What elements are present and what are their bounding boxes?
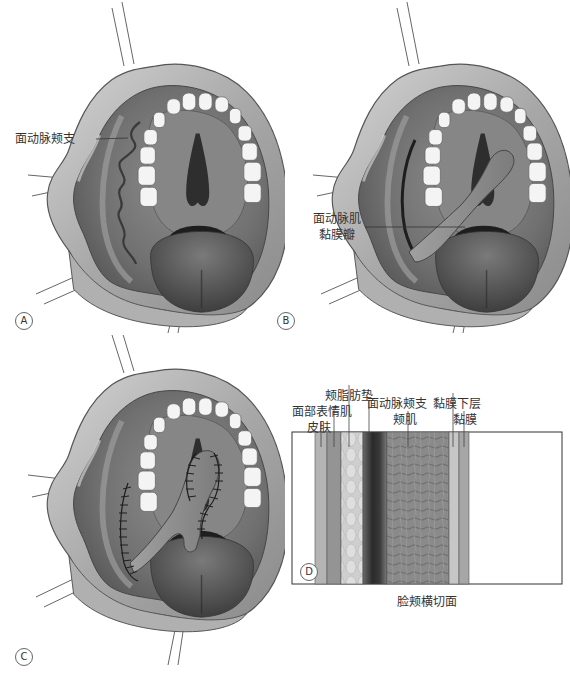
panel-b: 面动脉肌 黏膜瓣 B	[285, 0, 570, 335]
cheek-cross-section	[285, 335, 570, 675]
label-flap-line2: 黏膜瓣	[319, 228, 355, 242]
label-submucosa: 黏膜下层	[433, 397, 481, 411]
layer-submucosa	[449, 432, 459, 584]
layer-mucosa	[459, 432, 469, 584]
label-buccal-fat-pad: 颊脂肪垫	[325, 389, 373, 403]
panel-c: C	[0, 335, 285, 675]
layer-buccinator	[387, 432, 449, 584]
mouth-illustration-a	[0, 0, 285, 335]
label-buccinator: 颊肌	[393, 413, 417, 427]
panel-letter-b: B	[277, 312, 295, 330]
cross-section-caption: 脸颊横切面	[397, 595, 457, 609]
mouth-illustration-b	[285, 0, 570, 335]
label-flap-line1: 面动脉肌	[313, 212, 361, 226]
panel-letter-a: A	[15, 312, 33, 330]
panel-a: 面动脉颊支 A	[0, 0, 285, 335]
layer-buccal-fat-pad	[341, 432, 363, 584]
label-mucosa: 黏膜	[453, 413, 477, 427]
layer-facial-expression-muscle	[327, 432, 341, 584]
label-facial-artery-buccal-branch: 面动脉颊支	[15, 132, 75, 146]
layer-facial-artery-buccal-branch	[363, 432, 387, 584]
panel-d: 颊脂肪垫 面部表情肌 皮肤 面动脉颊支 颊肌 黏膜下层 黏膜 D 脸颊横切面	[285, 335, 570, 675]
label-facial-artery-buccal-branch: 面动脉颊支	[367, 397, 427, 411]
panel-letter-c: C	[15, 648, 33, 666]
label-facial-expression-muscle: 面部表情肌	[292, 405, 352, 419]
panel-letter-d: D	[300, 563, 318, 581]
mouth-illustration-c	[0, 335, 285, 675]
layer-skin	[315, 432, 327, 584]
label-skin: 皮肤	[307, 421, 331, 435]
